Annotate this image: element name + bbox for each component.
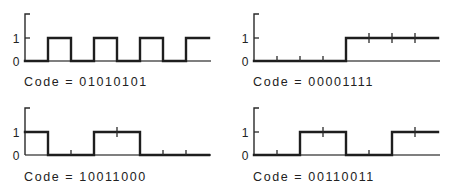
level-zero-label: 0 [242, 55, 249, 69]
code-waveform-diagram: 01Code = 0101010101Code = 0000111101Code… [0, 0, 456, 191]
code-label: Code = 00001111 [253, 75, 374, 89]
code-label: Code = 01010101 [24, 75, 148, 89]
level-one-label: 1 [13, 32, 20, 46]
level-one-label: 1 [242, 32, 249, 46]
waveform-panel-top-right: 01Code = 00001111 [242, 14, 440, 89]
level-zero-label: 0 [242, 149, 249, 163]
level-one-label: 1 [242, 126, 249, 140]
nrz-waveform [25, 38, 209, 61]
waveform-panel-bottom-left: 01Code = 10011000 [13, 108, 211, 184]
waveform-panel-bottom-right: 01Code = 00110011 [242, 108, 440, 184]
code-label: Code = 10011000 [24, 170, 147, 184]
level-zero-label: 0 [13, 149, 20, 163]
waveform-panel-top-left: 01Code = 01010101 [13, 14, 211, 89]
level-one-label: 1 [13, 126, 20, 140]
nrz-waveform [254, 38, 438, 61]
nrz-waveform [254, 132, 438, 155]
code-label: Code = 00110011 [253, 170, 375, 184]
level-zero-label: 0 [13, 55, 20, 69]
